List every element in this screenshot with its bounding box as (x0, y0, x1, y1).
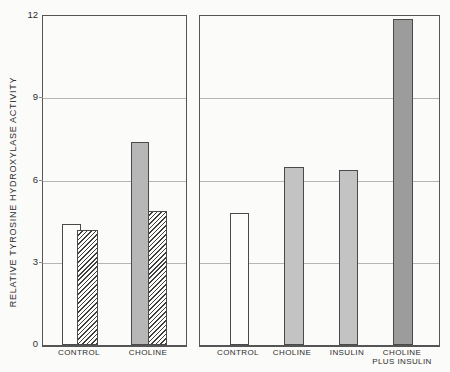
y-tick-mark-9 (39, 97, 43, 98)
y-axis-title: RELATIVE TYROSINE HYDROXYLASE ACTIVITY (7, 27, 19, 357)
gridline-6 (43, 181, 186, 182)
bar-right-choline-plus-insulin (393, 19, 413, 345)
bar-right-choline (284, 167, 304, 345)
y-tick-label-6: 6 (8, 175, 38, 185)
bar-right-control-open (230, 213, 249, 345)
bar-left-choline-hatched (148, 211, 167, 345)
bar-left-control-hatched (77, 230, 98, 345)
y-tick-label-12: 12 (8, 10, 38, 20)
bar-chart-figure: RELATIVE TYROSINE HYDROXYLASE ACTIVITY C… (0, 0, 450, 372)
category-label-choline: CHOLINE (273, 348, 311, 357)
bar-left-choline-gray (131, 142, 149, 345)
category-label-choline: CHOLINE (129, 348, 167, 357)
gridline-9 (43, 98, 186, 99)
y-tick-label-0: 0 (8, 339, 38, 349)
category-label-choline-plus-insulin: CHOLINE (383, 348, 421, 357)
y-tick-mark-6 (39, 180, 43, 181)
left-chart-panel (42, 15, 187, 347)
y-tick-label-3: 3 (8, 257, 38, 267)
y-tick-label-9: 9 (8, 92, 38, 102)
category-label-control: CONTROL (217, 348, 259, 357)
category-label-choline-plus-insulin-line2: PLUS INSULIN (372, 357, 431, 366)
category-label-control: CONTROL (58, 348, 100, 357)
y-tick-mark-3 (39, 262, 43, 263)
bar-right-insulin (339, 170, 358, 345)
right-chart-panel (199, 15, 440, 347)
category-label-insulin: INSULIN (330, 348, 364, 357)
